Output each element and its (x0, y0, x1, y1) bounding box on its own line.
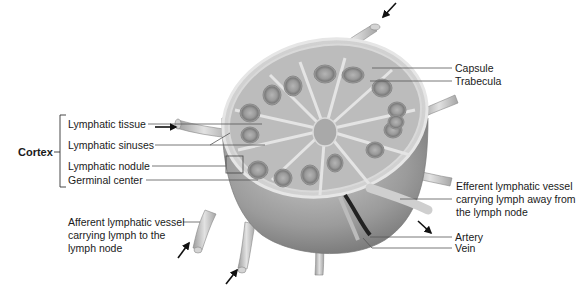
efferent-label-line-3: the lymph node (456, 206, 528, 219)
cortex-bracket (54, 115, 66, 187)
lymphatic-sinuses-label: Lymphatic sinuses (68, 139, 154, 152)
lymph-node-diagram: Cortex Lymphatic tissue Lymphatic sinuse… (0, 0, 584, 298)
lymphatic-nodule-label: Lymphatic nodule (68, 160, 150, 173)
afferent-arrow-bottom-left (178, 243, 189, 258)
germinal-center-label: Germinal center (68, 174, 143, 187)
vein-label: Vein (455, 242, 475, 255)
afferent-arrow-bottom (226, 270, 237, 284)
afferent-label-line-3: lymph node (68, 242, 122, 255)
capsule-label: Capsule (455, 62, 494, 75)
trabecula-label: Trabecula (455, 75, 501, 88)
afferent-arrow-top (383, 3, 396, 17)
efferent-arrow (418, 221, 431, 233)
afferent-label-line-2: carrying lymph to the (68, 229, 165, 242)
efferent-label-line-2: carrying lymph away from (456, 193, 576, 206)
efferent-label-line-1: Efferent lymphatic vessel (456, 180, 573, 193)
cortex-label: Cortex (18, 146, 53, 159)
medulla (313, 118, 337, 146)
lymphatic-tissue-label: Lymphatic tissue (68, 118, 146, 131)
afferent-label-line-1: Afferent lymphatic vessel (68, 216, 185, 229)
